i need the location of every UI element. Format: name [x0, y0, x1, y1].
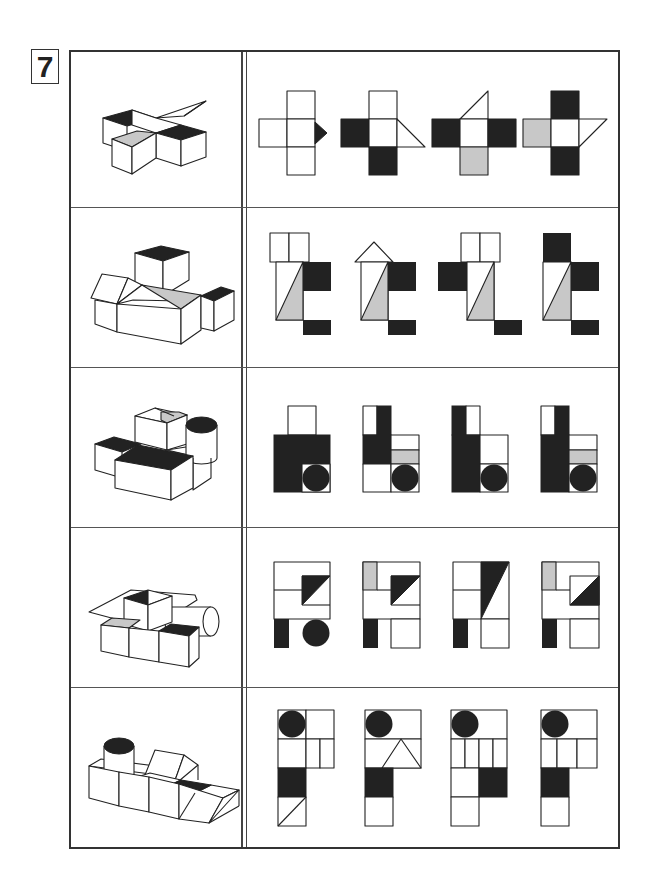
isometric-figure-2: [71, 208, 243, 368]
answer-options-svg-2: [248, 208, 620, 368]
answer-options-4: [248, 528, 618, 687]
answer-options-5: [248, 688, 618, 848]
option-2c[interactable]: [438, 233, 522, 335]
option-1d[interactable]: [523, 91, 607, 175]
isometric-figure-4: [71, 528, 243, 688]
option-5c[interactable]: [451, 710, 507, 826]
option-3a[interactable]: [274, 406, 330, 492]
option-4b[interactable]: [363, 562, 420, 648]
answer-options-2: [248, 208, 618, 367]
option-4d[interactable]: [542, 562, 599, 648]
answer-options-1: [248, 52, 618, 207]
option-2b[interactable]: [355, 242, 416, 335]
question-figure-1: [71, 52, 243, 207]
answer-options-svg-1: [248, 52, 620, 208]
answer-options-svg-3: [248, 368, 620, 528]
option-3b[interactable]: [363, 406, 419, 492]
puzzle-row-3: [71, 368, 618, 528]
option-1a[interactable]: [259, 91, 327, 175]
puzzle-row-4: [71, 528, 618, 688]
isometric-figure-3: [71, 368, 243, 528]
puzzle-row-5: [71, 688, 618, 848]
question-figure-2: [71, 208, 243, 367]
option-5b[interactable]: [365, 710, 421, 826]
option-5d[interactable]: [541, 710, 597, 826]
question-figure-3: [71, 368, 243, 527]
option-1c[interactable]: [432, 91, 516, 175]
answer-options-3: [248, 368, 618, 527]
isometric-figure-1: [71, 52, 243, 208]
puzzle-frame: [69, 50, 620, 849]
triangle-wedge: [156, 101, 206, 118]
option-2d[interactable]: [543, 233, 599, 335]
answer-options-svg-5: [248, 688, 620, 848]
option-4a[interactable]: [274, 562, 330, 648]
option-2a[interactable]: [270, 233, 331, 335]
option-1b[interactable]: [341, 91, 425, 175]
puzzle-row-1: [71, 52, 618, 208]
isometric-figure-5: [71, 688, 243, 848]
question-figure-4: [71, 528, 243, 687]
question-figure-5: [71, 688, 243, 848]
option-3c[interactable]: [452, 406, 508, 492]
answer-options-svg-4: [248, 528, 620, 688]
problem-number: 7: [31, 49, 59, 84]
option-4c[interactable]: [453, 562, 509, 648]
option-5a[interactable]: [278, 710, 334, 826]
puzzle-row-2: [71, 208, 618, 368]
option-3d[interactable]: [541, 406, 597, 492]
